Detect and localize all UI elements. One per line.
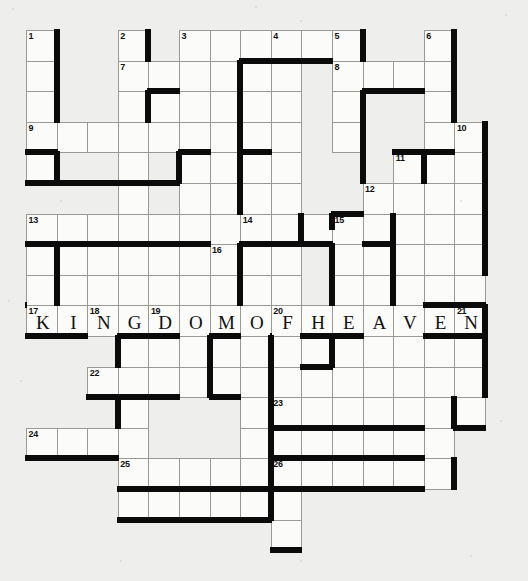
crossword-cell[interactable]: [210, 214, 242, 246]
crossword-cell[interactable]: [179, 61, 211, 93]
crossword-cell[interactable]: [363, 367, 395, 399]
cell-letter: M: [211, 306, 241, 336]
paper-speck: [120, 560, 122, 562]
crossword-grid[interactable]: 1234567891011121314151617KI18NG19DOMO20F…: [0, 0, 528, 581]
crossword-cell[interactable]: [271, 489, 303, 521]
cell-letter: E: [333, 306, 363, 336]
cell-letter: V: [394, 306, 424, 336]
crossword-cell[interactable]: [118, 122, 150, 154]
crossword-cell[interactable]: A: [363, 305, 395, 337]
crossword-cell[interactable]: [240, 183, 272, 215]
crossword-cell[interactable]: [179, 183, 211, 215]
crossword-cell[interactable]: 18N: [87, 305, 119, 337]
crossword-cell[interactable]: [148, 91, 180, 123]
crossword-cell[interactable]: [393, 183, 425, 215]
grid-divider-bar: [451, 457, 457, 490]
crossword-cell[interactable]: [118, 336, 150, 368]
crossword-cell[interactable]: 3: [179, 30, 211, 62]
crossword-cell[interactable]: [118, 428, 150, 460]
crossword-cell[interactable]: [179, 91, 211, 123]
crossword-cell[interactable]: [393, 244, 425, 276]
crossword-cell[interactable]: [424, 428, 456, 460]
crossword-cell[interactable]: [424, 152, 456, 184]
crossword-cell[interactable]: [301, 367, 333, 399]
crossword-cell[interactable]: [57, 122, 89, 154]
crossword-cell[interactable]: [148, 336, 180, 368]
crossword-cell[interactable]: [148, 122, 180, 154]
crossword-cell[interactable]: [148, 244, 180, 276]
crossword-cell[interactable]: [179, 152, 211, 184]
crossword-cell[interactable]: [148, 275, 180, 307]
crossword-cell[interactable]: V: [393, 305, 425, 337]
crossword-cell[interactable]: [271, 91, 303, 123]
grid-divider-bar: [25, 302, 27, 308]
crossword-cell[interactable]: [424, 244, 456, 276]
paper-speck: [20, 380, 22, 382]
crossword-cell[interactable]: [240, 61, 272, 93]
crossword-cell[interactable]: [271, 367, 303, 399]
crossword-cell[interactable]: [240, 244, 272, 276]
crossword-cell[interactable]: [393, 336, 425, 368]
crossword-cell[interactable]: [271, 244, 303, 276]
crossword-cell[interactable]: [179, 275, 211, 307]
grid-divider-bar: [360, 90, 366, 184]
crossword-cell[interactable]: [240, 275, 272, 307]
crossword-cell[interactable]: [363, 336, 395, 368]
crossword-cell[interactable]: [424, 214, 456, 246]
crossword-cell[interactable]: [332, 336, 364, 368]
cell-number: 12: [365, 184, 374, 194]
crossword-cell[interactable]: [332, 275, 364, 307]
grid-divider-bar: [451, 396, 457, 429]
crossword-cell[interactable]: [271, 61, 303, 93]
grid-divider-bar: [117, 333, 180, 339]
crossword-cell[interactable]: [118, 275, 150, 307]
cell-number: 8: [335, 62, 340, 72]
crossword-cell[interactable]: [332, 244, 364, 276]
crossword-cell[interactable]: 12: [363, 183, 395, 215]
crossword-cell[interactable]: [87, 122, 119, 154]
crossword-cell[interactable]: [271, 183, 303, 215]
crossword-cell[interactable]: [240, 152, 272, 184]
crossword-cell[interactable]: [179, 244, 211, 276]
crossword-cell[interactable]: [87, 275, 119, 307]
crossword-cell[interactable]: [210, 336, 242, 368]
crossword-cell[interactable]: [393, 275, 425, 307]
crossword-cell[interactable]: [118, 397, 150, 429]
cell-number: 6: [426, 31, 431, 41]
cell-letter: O: [241, 306, 271, 336]
crossword-cell[interactable]: [118, 244, 150, 276]
crossword-cell[interactable]: 7: [118, 61, 150, 93]
crossword-cell[interactable]: [424, 336, 456, 368]
paper-speck: [470, 555, 472, 557]
crossword-cell[interactable]: 20F: [271, 305, 303, 337]
crossword-cell[interactable]: [271, 122, 303, 154]
crossword-cell[interactable]: [332, 367, 364, 399]
crossword-cell[interactable]: [271, 275, 303, 307]
grid-divider-bar: [145, 90, 151, 123]
cell-number: 3: [182, 31, 187, 41]
crossword-cell[interactable]: O: [240, 305, 272, 337]
crossword-cell[interactable]: O: [179, 305, 211, 337]
grid-divider-bar: [117, 394, 180, 400]
crossword-cell[interactable]: [424, 367, 456, 399]
paper-speck: [505, 14, 507, 16]
cell-letter: A: [364, 306, 394, 336]
crossword-cell[interactable]: 8: [332, 61, 364, 93]
paper-speck: [255, 6, 257, 8]
crossword-cell[interactable]: [240, 91, 272, 123]
grid-divider-bar: [54, 243, 60, 306]
crossword-cell[interactable]: [271, 152, 303, 184]
crossword-cell[interactable]: [210, 30, 242, 62]
crossword-cell[interactable]: [271, 336, 303, 368]
cell-number: 2: [120, 31, 125, 41]
grid-divider-bar: [298, 213, 304, 246]
crossword-cell[interactable]: [393, 214, 425, 246]
crossword-cell[interactable]: [57, 244, 89, 276]
crossword-cell[interactable]: 15: [332, 214, 364, 246]
crossword-cell[interactable]: [424, 183, 456, 215]
crossword-cell[interactable]: [118, 183, 150, 215]
crossword-cell[interactable]: [393, 367, 425, 399]
crossword-cell[interactable]: [87, 244, 119, 276]
crossword-cell[interactable]: [57, 275, 89, 307]
paper-speck: [460, 200, 462, 202]
